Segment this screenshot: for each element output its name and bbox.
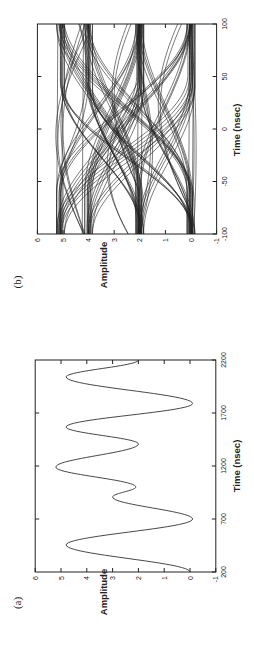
- time-tick-label: 1200: [220, 458, 227, 474]
- panel-label: (b): [11, 275, 24, 288]
- panel-a-waveform: -10123456200700120017002200AmplitudeTime…: [11, 352, 242, 615]
- eye-trace: [82, 24, 83, 234]
- amplitude-tick-label: 4: [83, 576, 90, 580]
- amplitude-tick-label: 6: [32, 576, 39, 580]
- amplitude-tick-label: 1: [161, 576, 168, 580]
- time-axis-label: Time (nsec): [231, 104, 242, 157]
- waveform-line: [56, 360, 193, 572]
- time-tick-label: 700: [220, 513, 227, 525]
- amplitude-tick-label: 1: [162, 238, 169, 242]
- amplitude-tick-label: 0: [187, 576, 194, 580]
- eye-trace: [57, 24, 58, 234]
- amplitude-tick-label: 4: [85, 238, 92, 242]
- time-tick-label: -100: [221, 227, 228, 241]
- time-tick-label: 0: [221, 127, 228, 131]
- amplitude-tick-label: 2: [135, 576, 142, 580]
- panel-b-eye-diagram: -10123456-100-50050100AmplitudeTime (nse…: [11, 18, 242, 288]
- figure: -10123456-100-50050100AmplitudeTime (nse…: [0, 0, 254, 645]
- amplitude-tick-label: 3: [109, 576, 116, 580]
- amplitude-tick-label: 0: [188, 238, 195, 242]
- time-tick-label: 100: [221, 18, 228, 30]
- plot-frame: [35, 360, 216, 572]
- time-axis-label: Time (nsec): [231, 440, 242, 493]
- amplitude-tick-label: 3: [111, 238, 118, 242]
- time-tick-label: 200: [220, 566, 227, 578]
- amplitude-tick-label: 5: [58, 576, 65, 580]
- amplitude-axis-label: Amplitude: [98, 242, 109, 288]
- time-tick-label: 2200: [220, 352, 227, 368]
- amplitude-tick-label: -1: [212, 576, 219, 582]
- panel-label: (a): [11, 597, 24, 610]
- amplitude-tick-label: 6: [34, 238, 41, 242]
- time-tick-label: 50: [221, 73, 228, 81]
- time-tick-label: -50: [221, 176, 228, 186]
- amplitude-tick-label: 2: [136, 238, 143, 242]
- amplitude-axis-label: Amplitude: [98, 569, 109, 615]
- amplitude-tick-label: 5: [60, 238, 67, 242]
- time-tick-label: 1700: [220, 405, 227, 421]
- eye-traces: [56, 24, 196, 234]
- amplitude-tick-label: -1: [213, 238, 220, 244]
